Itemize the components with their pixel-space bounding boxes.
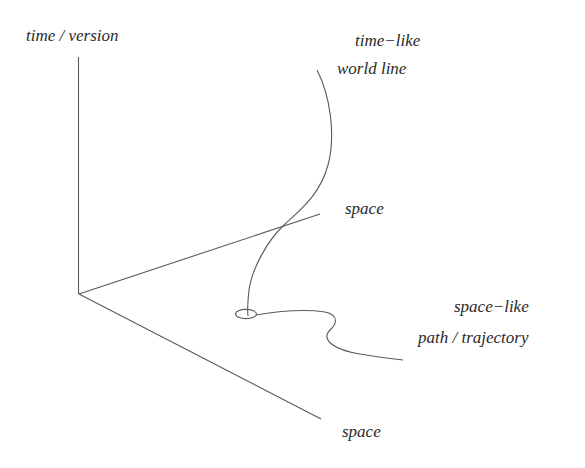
space-axis-back-label: space bbox=[345, 200, 384, 217]
trajectory-loop bbox=[236, 309, 257, 318]
diagram-svg bbox=[0, 0, 585, 468]
world-line-label-line2: world line bbox=[337, 60, 406, 77]
space-axis-front bbox=[79, 294, 321, 419]
trajectory-label-line2: path / trajectory bbox=[418, 329, 528, 346]
time-axis-label: time / version bbox=[26, 27, 119, 44]
trajectory-label-line1: space−like bbox=[454, 298, 529, 315]
world-line-curve bbox=[248, 70, 332, 316]
space-axis-back bbox=[79, 214, 320, 294]
space-axis-front-label: space bbox=[342, 423, 381, 440]
diagram-canvas: time / version time−like world line spac… bbox=[0, 0, 585, 468]
trajectory-curve bbox=[256, 311, 403, 360]
world-line-label-line1: time−like bbox=[355, 32, 420, 49]
